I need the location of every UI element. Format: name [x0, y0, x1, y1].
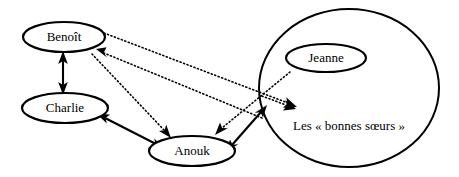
edge-benoit-to-anouk: [92, 54, 171, 138]
node-jeanne[interactable]: Jeanne: [286, 44, 366, 72]
benoit-label: Benoît: [47, 29, 82, 44]
relationship-diagram: Les « bonnes sœurs » Les bonnes soeurs :…: [0, 0, 459, 177]
charlie-label: Charlie: [46, 100, 84, 115]
diagram-canvas: Les « bonnes sœurs » Les bonnes soeurs :…: [0, 0, 459, 177]
edge-benoit-charlie: [58, 51, 68, 95]
anouk-label: Anouk: [174, 143, 210, 158]
bonnes-soeurs-label: Les « bonnes sœurs »: [293, 118, 405, 133]
node-benoit[interactable]: Benoît: [23, 22, 105, 52]
jeanne-label: Jeanne: [308, 50, 344, 65]
edge-benoit-to-bonnes-soeurs-line: [104, 33, 288, 103]
edge-bonnes-soeurs-to-benoit: [96, 47, 262, 118]
bonnes-soeurs-ellipse: [259, 9, 439, 167]
node-bonnes-soeurs[interactable]: Les « bonnes sœurs »: [259, 9, 439, 167]
arrowhead-bonnes-soeurs-to-benoit: [96, 47, 107, 57]
edge-charlie-anouk-line: [105, 118, 156, 144]
node-charlie[interactable]: Charlie: [22, 93, 108, 123]
node-anouk[interactable]: Anouk: [149, 136, 235, 166]
